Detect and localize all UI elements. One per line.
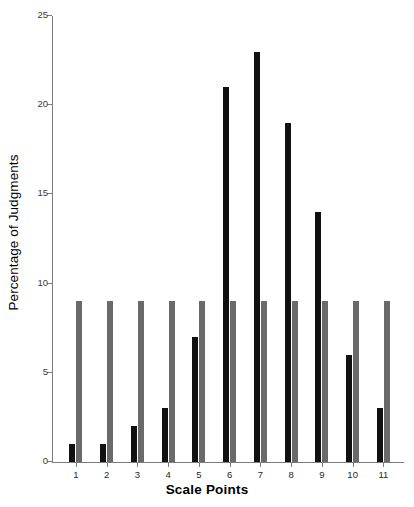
y-tick-label: 0 — [43, 455, 48, 466]
bar-observed-10 — [346, 355, 352, 462]
x-tick-label: 2 — [96, 469, 118, 480]
x-tick-label: 3 — [126, 469, 148, 480]
bar-observed-9 — [315, 212, 321, 462]
y-tick-label: 20 — [37, 98, 48, 109]
x-tick-mark — [291, 463, 292, 467]
bar-uniform-5 — [199, 301, 205, 462]
y-tick-label: 15 — [37, 187, 48, 198]
bar-uniform-6 — [230, 301, 236, 462]
y-tick: 25 — [52, 15, 53, 16]
bar-uniform-3 — [138, 301, 144, 462]
x-tick-label: 7 — [249, 469, 271, 480]
plot-area: 0510152025 1234567891011 — [52, 16, 404, 463]
bar-observed-7 — [254, 52, 260, 462]
x-axis-title: Scale Points — [0, 482, 414, 497]
y-tick: 20 — [52, 104, 53, 105]
x-tick-mark — [230, 463, 231, 467]
x-tick-label: 4 — [157, 469, 179, 480]
bar-uniform-8 — [292, 301, 298, 462]
bar-chart: Percentage of Judgments 0510152025 12345… — [0, 0, 414, 507]
bar-uniform-11 — [384, 301, 390, 462]
bar-observed-11 — [377, 408, 383, 462]
x-tick-label: 9 — [311, 469, 333, 480]
y-tick: 5 — [52, 372, 53, 373]
x-tick-mark — [383, 463, 384, 467]
x-tick-mark — [168, 463, 169, 467]
x-tick-label: 8 — [280, 469, 302, 480]
y-tick: 0 — [52, 461, 53, 462]
y-tick: 10 — [52, 283, 53, 284]
y-axis-title: Percentage of Judgments — [0, 0, 26, 465]
y-tick: 15 — [52, 193, 53, 194]
y-tick-label: 10 — [37, 277, 48, 288]
bar-observed-1 — [69, 444, 75, 462]
x-tick-mark — [107, 463, 108, 467]
x-tick-label: 6 — [219, 469, 241, 480]
bar-observed-4 — [162, 408, 168, 462]
bar-observed-2 — [100, 444, 106, 462]
x-tick-mark — [353, 463, 354, 467]
bar-uniform-1 — [76, 301, 82, 462]
x-tick-mark — [76, 463, 77, 467]
bar-uniform-9 — [322, 301, 328, 462]
x-tick-label: 1 — [65, 469, 87, 480]
bar-observed-5 — [192, 337, 198, 462]
x-axis-title-text: Scale Points — [166, 482, 249, 497]
x-tick-label: 11 — [372, 469, 394, 480]
x-tick-mark — [137, 463, 138, 467]
x-tick-mark — [199, 463, 200, 467]
bar-uniform-4 — [169, 301, 175, 462]
x-axis-line — [52, 462, 404, 463]
x-tick-mark — [322, 463, 323, 467]
x-tick-label: 5 — [188, 469, 210, 480]
bar-observed-8 — [285, 123, 291, 462]
x-tick-mark — [260, 463, 261, 467]
bar-uniform-7 — [261, 301, 267, 462]
bar-uniform-10 — [353, 301, 359, 462]
y-tick-label: 5 — [43, 366, 48, 377]
y-axis-line — [52, 16, 53, 463]
bar-uniform-2 — [107, 301, 113, 462]
y-tick-label: 25 — [37, 9, 48, 20]
bar-observed-3 — [131, 426, 137, 462]
y-axis-title-text: Percentage of Judgments — [6, 154, 21, 310]
x-tick-label: 10 — [342, 469, 364, 480]
bar-observed-6 — [223, 87, 229, 462]
